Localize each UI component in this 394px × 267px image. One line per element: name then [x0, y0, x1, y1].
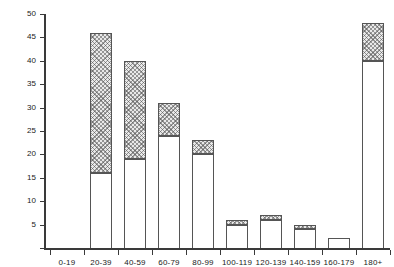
y-axis-tick: 30 — [40, 108, 46, 109]
bar-segment-lower — [124, 159, 145, 248]
bar-140-159 — [294, 225, 315, 248]
bar-segment-lower — [294, 229, 315, 248]
y-axis-tick: 20 — [40, 154, 46, 155]
y-axis-tick-label: 45 — [27, 31, 36, 42]
x-axis-tick — [118, 250, 119, 255]
bar-segment-upper — [158, 103, 179, 136]
x-axis-tick-label: 100-119 — [220, 257, 254, 267]
y-axis-tick: 25 — [40, 131, 46, 132]
bar-80-99 — [192, 140, 213, 248]
y-axis-tick — [40, 248, 46, 249]
y-axis-tick-label: 20 — [27, 148, 36, 159]
bar-chart: NUMBER OF PATIENTS 5101520253035404550 0… — [0, 0, 394, 267]
x-axis-tick-label: 180+ — [356, 257, 390, 267]
bar-180+ — [362, 23, 383, 248]
x-axis-tick-label: 20-39 — [84, 257, 118, 267]
bar-160-179 — [328, 239, 349, 248]
bar-segment-lower — [260, 220, 281, 248]
bar-segment-upper — [192, 140, 213, 154]
bar-120-139 — [260, 215, 281, 248]
y-axis-tick-label: 25 — [27, 125, 36, 136]
bar-segment-lower — [192, 154, 213, 248]
bar-segment-upper — [124, 61, 145, 159]
bar-20-39 — [90, 33, 111, 248]
y-axis-tick-label: 40 — [27, 55, 36, 66]
bar-segment-lower — [158, 136, 179, 248]
y-axis-tick: 5 — [40, 225, 46, 226]
bar-segment-lower — [90, 173, 111, 248]
bar-segment-lower — [328, 238, 349, 248]
y-axis-tick: 35 — [40, 84, 46, 85]
x-axis-tick-label: 40-59 — [118, 257, 152, 267]
y-axis-tick: 50 — [40, 14, 46, 15]
x-axis-tick-label: 0-19 — [50, 257, 84, 267]
bar-segment-lower — [362, 61, 383, 248]
y-axis-tick: 15 — [40, 178, 46, 179]
x-axis-tick — [186, 250, 187, 255]
x-axis-tick — [152, 250, 153, 255]
x-axis-tick — [254, 250, 255, 255]
x-axis-tick-label: 160-179 — [322, 257, 356, 267]
bar-100-119 — [226, 220, 247, 248]
y-axis-tick: 40 — [40, 61, 46, 62]
x-axis-tick-label: 60-79 — [152, 257, 186, 267]
x-axis-tick — [322, 250, 323, 255]
bar-segment-upper — [260, 215, 281, 220]
y-axis-tick-label: 30 — [27, 102, 36, 113]
x-axis-tick — [288, 250, 289, 255]
y-axis-tick-label: 50 — [27, 8, 36, 19]
x-axis-tick — [50, 250, 51, 255]
bar-segment-upper — [90, 33, 111, 173]
x-axis-tick — [390, 250, 391, 255]
bar-segment-upper — [226, 220, 247, 225]
bar-segment-upper — [362, 23, 383, 60]
plot-area: 5101520253035404550 0-1920-3940-5960-798… — [44, 10, 390, 252]
bar-60-79 — [158, 103, 179, 248]
bar-segment-upper — [294, 225, 315, 230]
x-axis-tick — [220, 250, 221, 255]
bar-40-59 — [124, 61, 145, 248]
x-axis-tick-label: 120-139 — [254, 257, 288, 267]
x-axis-tick — [356, 250, 357, 255]
x-axis-tick-label: 80-99 — [186, 257, 220, 267]
x-axis-tick — [84, 250, 85, 255]
y-axis-tick: 45 — [40, 37, 46, 38]
y-axis-tick-label: 35 — [27, 78, 36, 89]
x-axis-line — [44, 248, 390, 250]
y-axis-tick-label: 5 — [32, 219, 36, 230]
x-axis-tick-label: 140-159 — [288, 257, 322, 267]
y-axis-tick-label: 10 — [27, 195, 36, 206]
y-axis-tick: 10 — [40, 201, 46, 202]
y-axis-tick-label: 15 — [27, 172, 36, 183]
bar-segment-lower — [226, 225, 247, 248]
